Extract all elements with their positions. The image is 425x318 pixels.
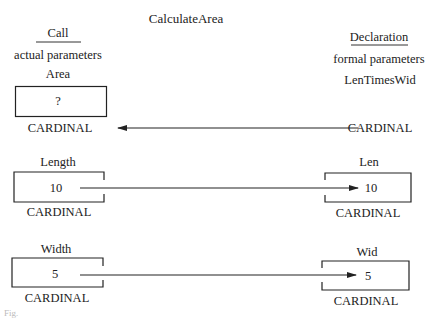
- width-name: Width: [41, 243, 72, 256]
- lentimeswid-name: LenTimesWid: [344, 74, 415, 87]
- length-value: 10: [50, 182, 63, 195]
- width-type: CARDINAL: [25, 292, 90, 305]
- len-value: 10: [365, 182, 378, 195]
- actual-parameters-label: actual parameters: [14, 49, 102, 62]
- call-heading: Call: [48, 27, 69, 40]
- area-value: ?: [55, 95, 61, 108]
- length-type: CARDINAL: [27, 206, 92, 219]
- wid-type: CARDINAL: [334, 295, 399, 308]
- wid-value: 5: [365, 270, 371, 283]
- width-value: 5: [52, 268, 58, 281]
- area-name: Area: [46, 68, 70, 81]
- length-name: Length: [40, 156, 75, 169]
- procedure-title: CalculateArea: [149, 12, 223, 25]
- len-name: Len: [359, 156, 378, 169]
- len-type: CARDINAL: [336, 207, 401, 220]
- figure-caption: Fig.: [4, 309, 18, 318]
- lentimeswid-type: CARDINAL: [348, 122, 413, 135]
- wid-name: Wid: [356, 246, 377, 259]
- formal-parameters-label: formal parameters: [333, 53, 424, 66]
- area-type: CARDINAL: [28, 122, 93, 135]
- declaration-heading: Declaration: [350, 31, 408, 44]
